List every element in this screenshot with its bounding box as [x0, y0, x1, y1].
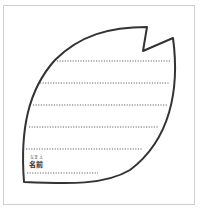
name-label: 名前	[29, 159, 43, 169]
sakura-petal-outline	[0, 0, 201, 212]
